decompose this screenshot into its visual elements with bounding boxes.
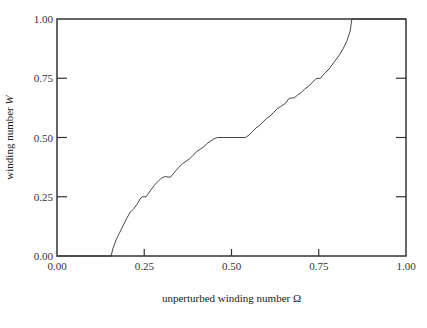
staircase-curve xyxy=(57,19,406,256)
y-tick-label: 0.00 xyxy=(34,250,54,262)
staircase-chart: 0.000.250.500.751.000.000.250.500.751.00… xyxy=(0,0,427,328)
tick-labels: 0.000.250.500.751.000.000.250.500.751.00 xyxy=(34,13,416,272)
x-tick-label: 0.50 xyxy=(222,260,242,272)
x-tick-label: 0.25 xyxy=(135,260,155,272)
y-tick-label: 0.25 xyxy=(34,191,54,203)
y-tick-label: 0.50 xyxy=(34,132,54,144)
y-tick-label: 0.75 xyxy=(34,72,54,84)
x-tick-label: 1.00 xyxy=(396,260,416,272)
x-axis-label: unperturbed winding number Ω xyxy=(162,292,301,304)
y-axis-label: winding number W xyxy=(3,95,15,180)
x-tick-label: 0.75 xyxy=(309,260,329,272)
y-tick-label: 1.00 xyxy=(34,13,54,25)
axis-ticks xyxy=(57,78,406,256)
